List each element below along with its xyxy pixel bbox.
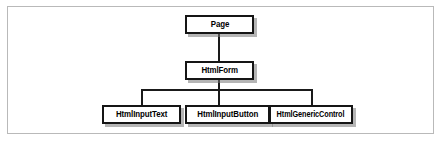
- node-htmlgenericcontrol-label: HtmlGenericControl: [277, 110, 345, 118]
- node-page[interactable]: Page: [185, 15, 254, 34]
- node-htmlinputbutton-label: HtmlInputButton: [197, 110, 258, 119]
- node-page-label: Page: [210, 20, 229, 29]
- node-htmlinputtext-label: HtmlInputText: [116, 110, 167, 119]
- node-htmlgenericcontrol[interactable]: HtmlGenericControl: [269, 105, 353, 124]
- connector-to-htmlgenericcontrol: [311, 89, 313, 105]
- connector-htmlform-stub: [218, 80, 220, 105]
- node-htmlform-label: HtmlForm: [201, 66, 238, 75]
- node-htmlinputtext[interactable]: HtmlInputText: [102, 105, 181, 124]
- connector-page-to-htmlform: [218, 34, 220, 61]
- connector-children-bus: [141, 89, 313, 91]
- diagram-canvas: Page HtmlForm HtmlInputText HtmlInputBut…: [8, 7, 433, 133]
- node-htmlinputbutton[interactable]: HtmlInputButton: [185, 105, 270, 124]
- connector-to-htmlinputtext: [141, 89, 143, 105]
- figure-frame: Page HtmlForm HtmlInputText HtmlInputBut…: [7, 6, 434, 134]
- node-htmlform[interactable]: HtmlForm: [185, 61, 254, 80]
